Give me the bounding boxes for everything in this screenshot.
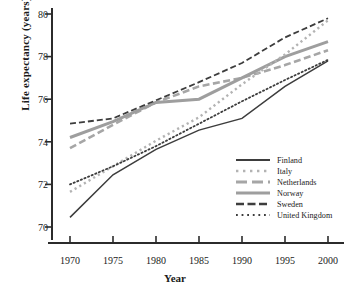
data-series-layer [70,18,328,217]
series-line-norway [70,42,328,138]
chart-legend: Finland Italy Netherlands Norway Sweden … [236,156,333,220]
legend-label-netherlands: Netherlands [277,178,317,187]
legend-label-norway: Norway [277,189,304,198]
plot-area: Finland Italy Netherlands Norway Sweden … [0,0,350,291]
legend-label-italy: Italy [277,167,293,176]
legend-label-united-kingdom: United Kingdom [277,211,333,220]
life-expectancy-line-chart: Life expectancy (years) Year 80 78 76 74… [0,0,350,291]
series-line-sweden [70,18,328,123]
legend-label-finland: Finland [277,156,302,165]
legend-label-sweden: Sweden [277,200,303,209]
